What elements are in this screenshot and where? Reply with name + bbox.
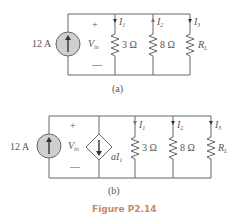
source-value: 12 A [10, 141, 30, 152]
circuit-a: 12 A + Vin — I1 I2 I3 3 Ω 8 Ω RL (a) [32, 14, 208, 95]
current-label-i1: I1 [118, 16, 125, 28]
resistor-icon [186, 34, 194, 56]
current-label-i3: I3 [214, 119, 221, 131]
minus-sign: — [91, 59, 103, 70]
label-a: (a) [112, 83, 123, 95]
arrow-up-icon [151, 18, 155, 22]
arrow-down-icon [209, 121, 213, 125]
plus-sign: + [70, 120, 76, 131]
current-label-i3: I3 [193, 16, 200, 28]
resistor-icon [131, 137, 139, 159]
arrow-down-icon [133, 121, 137, 125]
label-b: (b) [108, 185, 120, 197]
current-source-icon [37, 134, 61, 158]
arrow-down-icon [188, 19, 192, 23]
resistor-value-3ohm: 3 Ω [122, 39, 137, 50]
source-value: 12 A [32, 38, 52, 49]
plus-sign: + [92, 19, 98, 30]
voltage-label: Vin [88, 38, 99, 50]
resistor-icon [149, 34, 157, 56]
dependent-current-source-icon [86, 134, 112, 160]
resistor-value-8ohm: 8 Ω [180, 142, 195, 153]
resistor-value-8ohm: 8 Ω [160, 39, 175, 50]
current-label-i2: I2 [156, 16, 163, 28]
resistor-value-3ohm: 3 Ω [142, 142, 157, 153]
figure-caption: Figure P2.14 [92, 204, 157, 214]
circuit-b: 12 A + Vin — aI1 I1 I2 I3 3 Ω 8 Ω RL (b) [10, 116, 228, 197]
circuit-figure: 12 A + Vin — I1 I2 I3 3 Ω 8 Ω RL (a) [0, 0, 240, 224]
current-label-i1: I1 [138, 119, 145, 131]
resistor-value-rl: RL [217, 142, 228, 154]
arrow-down-icon [171, 121, 175, 125]
resistor-icon [169, 137, 177, 159]
resistor-icon [111, 34, 119, 56]
current-source-icon [56, 32, 80, 56]
resistor-value-rl: RL [197, 39, 208, 51]
arrow-down-icon [113, 19, 117, 23]
voltage-label: Vin [68, 140, 79, 152]
dependent-source-label: aI1 [111, 151, 122, 163]
current-label-i2: I2 [176, 119, 183, 131]
resistor-icon [207, 137, 215, 159]
minus-sign: — [69, 161, 81, 172]
